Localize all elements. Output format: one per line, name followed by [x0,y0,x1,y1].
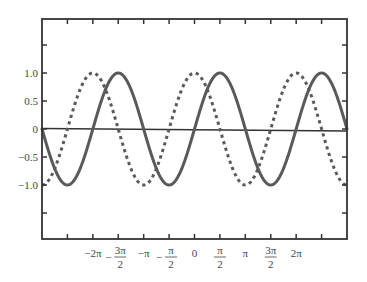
y-tick-label: −0.5 [18,151,38,163]
y-tick-label: −1.0 [18,179,38,191]
x-tick-label: 2π [291,247,303,259]
y-tick-label: 0.5 [24,95,38,107]
x-tick-label-denominator: 2 [168,258,174,270]
y-tick-label: 1.0 [24,67,38,79]
x-tick-label-numerator: π [168,244,174,256]
x-tick-label-numerator: 3π [115,244,127,256]
x-tick-label-numerator: 3π [265,244,277,256]
x-tick-label-numerator: π [217,244,223,256]
x-tick-label: π [243,247,249,259]
y-axis-tick-labels: 1.00.50−0.5−1.0 [18,67,38,191]
x-tick-label: −π [138,247,150,259]
x-tick-label-denominator: 2 [268,258,274,270]
chart: −2π3π2−−ππ2−0π2π3π22π 1.00.50−0.5−1.0 [0,0,367,282]
x-tick-label-denominator: 2 [217,258,223,270]
x-tick-label: 0 [192,247,198,259]
x-tick-label-minus: − [105,251,111,263]
y-tick-label: 0 [33,123,39,135]
x-tick-label: −2π [84,247,102,259]
x-tick-label-minus: − [156,251,162,263]
x-axis-tick-labels: −2π3π2−−ππ2−0π2π3π22π [84,244,302,270]
x-tick-label-denominator: 2 [118,258,124,270]
